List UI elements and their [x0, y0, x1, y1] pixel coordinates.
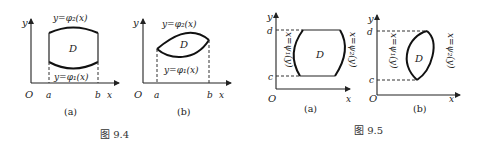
lower-curve [49, 62, 98, 69]
right-curve-label: x=ψ₂(y) [348, 32, 358, 68]
tick-b-label: b [95, 90, 101, 100]
right-curve-label: x=ψ₂(y) [446, 33, 456, 69]
fig-9-5-panel-a: y O d c x D x=ψ₁(y) x=ψ₂(y) (a) [266, 11, 358, 114]
origin-label: O [134, 89, 142, 100]
origin-label: O [25, 89, 33, 100]
fig-9-5-panel-b: y O d c x D x=ψ₁(y) x=ψ₂(y) (b) [367, 13, 460, 114]
upper-curve [49, 28, 98, 34]
fig-9-4-panel-a: y O a b x D y=φ₂(x) y=φ₁(x) (a) [21, 13, 119, 117]
tick-d-label: d [367, 27, 373, 37]
fig-9-4-panel-b: y O a b x D y=φ₂(x) y=φ₁(x) (b) [132, 17, 231, 117]
sublabel-a: (a) [304, 103, 317, 114]
sublabel-a: (a) [64, 106, 77, 117]
x-axis-label: x [449, 94, 454, 104]
tick-c-label: c [268, 72, 273, 82]
lower-curve-label: y=φ₁(x) [53, 72, 89, 82]
x-axis-label: x [346, 94, 351, 104]
origin-label: O [268, 93, 276, 104]
sublabel-b: (b) [413, 103, 427, 114]
region-label: D [179, 39, 188, 50]
tick-d-label: d [267, 26, 273, 36]
sublabel-b: (b) [177, 106, 191, 117]
region-label: D [315, 49, 324, 60]
y-axis-label: y [132, 17, 139, 28]
region-label: D [414, 53, 423, 64]
x-axis-label: x [219, 90, 224, 100]
tick-a-label: a [154, 90, 159, 100]
y-axis-label: y [21, 17, 28, 28]
caption-9-5: 图 9.5 [354, 125, 383, 136]
upper-curve-label: y=φ₂(x) [52, 13, 88, 23]
x-axis-label: x [107, 90, 112, 100]
left-curve-label: x=ψ₁(y) [389, 33, 399, 69]
left-curve-label: x=ψ₁(y) [284, 32, 294, 68]
tick-a-label: a [46, 90, 51, 100]
figures-canvas: y O a b x D y=φ₂(x) y=φ₁(x) (a) y O a b … [0, 0, 480, 151]
y-axis-label: y [266, 11, 273, 22]
tick-c-label: c [369, 75, 374, 85]
lower-curve-label: y=φ₁(x) [163, 65, 199, 75]
right-curve [335, 30, 345, 76]
left-curve [294, 30, 303, 76]
tick-b-label: b [207, 90, 213, 100]
y-axis-label: y [367, 13, 374, 24]
caption-9-4: 图 9.4 [100, 129, 129, 140]
upper-curve-label: y=φ₂(x) [161, 19, 197, 29]
region-label: D [68, 43, 77, 54]
origin-label: O [369, 93, 377, 104]
